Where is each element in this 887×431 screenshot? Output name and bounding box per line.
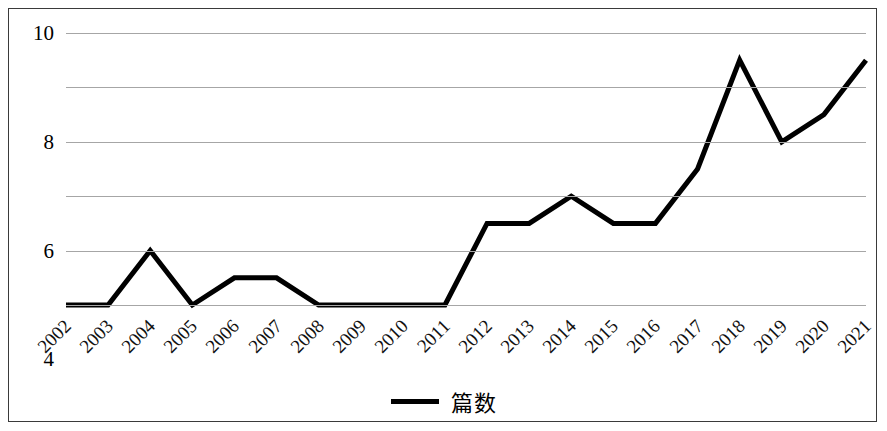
- gridline-y-8: 8: [66, 87, 866, 88]
- y-axis-tick-label: 8: [44, 131, 55, 152]
- x-axis-tick-label: 2016: [609, 315, 666, 372]
- plot-area: 0246810: [66, 33, 866, 305]
- y-axis-tick-label: 10: [33, 23, 54, 44]
- line-series-svg: [66, 33, 866, 305]
- gridline-y-4: 4: [66, 196, 866, 197]
- series-line-pian-shu: [66, 60, 866, 305]
- chart-figure: 0246810 20022003200420052006200720082009…: [0, 0, 887, 431]
- x-axis-tick-label: 2006: [188, 315, 245, 372]
- legend-label-pian-shu: 篇数: [451, 385, 497, 417]
- gridline-y-2: 2: [66, 251, 866, 252]
- gridline-y-6: 6: [66, 142, 866, 143]
- x-axis-tick-label: 2007: [230, 315, 287, 372]
- chart-legend: 篇数: [0, 385, 887, 417]
- y-axis-tick-label: 6: [44, 240, 55, 261]
- gridline-y-10: 10: [66, 33, 866, 34]
- legend-line-swatch: [391, 399, 439, 404]
- x-axis-tick-labels: 2002200320042005200620072008200920102011…: [66, 306, 866, 376]
- x-axis-tick-label: 2017: [651, 315, 708, 372]
